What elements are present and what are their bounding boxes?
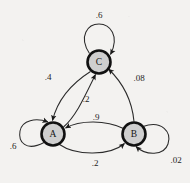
edge-a-to-b: [60, 144, 125, 154]
edge-label-a-to-b: .2: [92, 158, 99, 168]
edge-label-c-to-a: .4: [45, 72, 52, 82]
state-node-b-label: B: [131, 129, 137, 139]
edge-label-b-to-c: .08: [133, 73, 145, 83]
edge-label-a-to-c: .2: [83, 94, 90, 104]
markov-chain-diagram: C A B .6 .4 .2 .08 .9 .2 .6 .02: [0, 0, 190, 183]
state-node-b[interactable]: B: [123, 123, 146, 146]
edge-label-b-to-b: .02: [170, 155, 181, 165]
edge-b-to-a: [66, 122, 124, 128]
state-node-c-label: C: [96, 57, 102, 67]
state-node-a[interactable]: A: [42, 123, 65, 146]
edge-label-b-to-a: .9: [93, 112, 100, 122]
edge-label-c-to-c: .6: [96, 10, 103, 20]
state-node-c[interactable]: C: [88, 51, 111, 74]
edge-label-a-to-a: .6: [10, 141, 17, 151]
edge-a-to-c: [64, 75, 96, 128]
edge-b-to-c: [109, 69, 135, 122]
state-diagram-canvas: C A B .6 .4 .2 .08 .9 .2 .6 .02: [0, 0, 190, 183]
state-node-a-label: A: [50, 129, 57, 139]
